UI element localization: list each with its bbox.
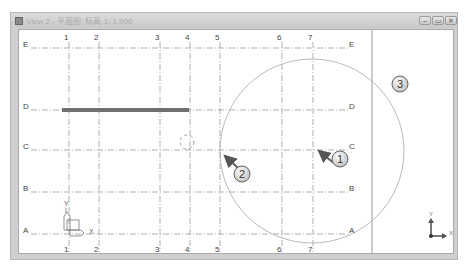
restore-button[interactable]: ▭ <box>432 16 444 25</box>
grid-column-label-bottom: 4 <box>185 245 190 254</box>
view-ucs-y-label: Y <box>429 211 433 217</box>
grid-column-label-top: 5 <box>215 33 220 42</box>
grid-row-label-left: C <box>23 142 29 151</box>
drawing-svg: 11223344556677EEDDCCBBAA 123 Y X Y X <box>19 30 454 254</box>
grid-column-label-bottom: 6 <box>277 245 282 254</box>
grid-row-label-right: B <box>349 184 354 193</box>
grid-column-label-top: 6 <box>277 33 282 42</box>
grid-row-label-right: D <box>349 102 355 111</box>
minimize-icon: – <box>423 17 427 24</box>
grid-row-label-left: A <box>23 226 29 235</box>
model-ucs-y-label: Y <box>64 200 69 207</box>
grid-row-label-left: E <box>23 40 28 49</box>
callout-2-arrow <box>225 156 238 168</box>
grid-column-label-bottom: 1 <box>64 245 69 254</box>
grid-column-label-top: 3 <box>155 33 160 42</box>
beam[interactable] <box>62 108 189 112</box>
grid-column-label-bottom: 7 <box>308 245 313 254</box>
restore-icon: ▭ <box>435 17 442 24</box>
close-button[interactable]: ✕ <box>445 16 457 25</box>
grid-row-label-left: D <box>23 102 29 111</box>
grid-column-label-bottom: 5 <box>215 245 220 254</box>
callouts: 123 <box>234 76 408 182</box>
callout-3-label: 3 <box>397 78 403 90</box>
grid-row-label-right: A <box>349 226 355 235</box>
drawing-canvas[interactable]: 11223344556677EEDDCCBBAA 123 Y X Y X <box>18 29 454 254</box>
grid-column-label-top: 2 <box>94 33 99 42</box>
grid-column-label-top: 7 <box>308 33 313 42</box>
grid-row-label-right: C <box>349 142 355 151</box>
window-titlebar[interactable]: View 2 - 平面图: 标高 1: 1,000 – ▭ ✕ <box>11 13 457 28</box>
viewport-window: View 2 - 平面图: 标高 1: 1,000 – ▭ ✕ <box>10 12 458 260</box>
minimize-button[interactable]: – <box>419 16 431 25</box>
view-ucs-x-label: X <box>449 230 453 236</box>
grid-column-label-top: 1 <box>64 33 69 42</box>
big-circle[interactable] <box>220 59 404 243</box>
close-icon: ✕ <box>448 17 454 24</box>
model-ucs-x-label: X <box>89 228 94 235</box>
small-circle[interactable] <box>180 135 194 149</box>
callout-2-label: 2 <box>239 168 245 180</box>
grid-column-label-bottom: 3 <box>155 245 160 254</box>
window-title: View 2 - 平面图: 标高 1: 1,000 <box>26 15 133 26</box>
grid-row-label-right: E <box>349 40 354 49</box>
grid-labels: 11223344556677EEDDCCBBAA <box>23 33 355 254</box>
view-ucs-icon <box>428 218 447 239</box>
grid-row-label-left: B <box>23 184 28 193</box>
model-ucs-icon <box>64 208 84 236</box>
grid-column-label-bottom: 2 <box>94 245 99 254</box>
grid-column-label-top: 4 <box>185 33 190 42</box>
view-icon <box>15 17 23 25</box>
callout-1-label: 1 <box>337 153 343 165</box>
